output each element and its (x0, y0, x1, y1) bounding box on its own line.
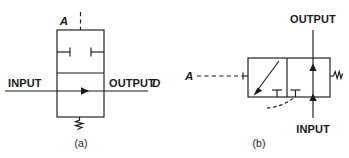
valve-schematic-figure: A INPUT OUTPUT D (a) (0, 0, 349, 158)
output-label-b: OUTPUT (290, 13, 336, 25)
caption-a: (a) (75, 137, 88, 149)
figure-canvas: A INPUT OUTPUT D (a) (0, 0, 349, 158)
pilot-label-b: A (184, 70, 193, 82)
curved-dashed-drain-icon-b (267, 97, 295, 108)
output-label-a: OUTPUT (109, 77, 155, 89)
input-label-b: INPUT (296, 123, 330, 135)
diagram-b-group: A OUTPUT INPUT (b) (184, 13, 343, 149)
blocked-port-tee-left-b (272, 90, 282, 97)
blocked-port-left-a (57, 48, 70, 57)
output-port-id-a: D (152, 77, 160, 89)
flow-arrow-up-upper-b (309, 64, 316, 72)
flow-arrow-right-icon-a (81, 87, 89, 95)
blocked-port-tee-right-b (291, 90, 301, 97)
input-label-a: INPUT (8, 77, 42, 89)
caption-b: (b) (253, 137, 266, 149)
blocked-port-right-a (91, 48, 104, 57)
pilot-label-a: A (59, 15, 68, 27)
spring-zigzag-icon-b (330, 72, 343, 79)
diagram-a-group: A INPUT OUTPUT D (a) (5, 12, 160, 149)
spring-zigzag-icon-a (76, 117, 84, 130)
